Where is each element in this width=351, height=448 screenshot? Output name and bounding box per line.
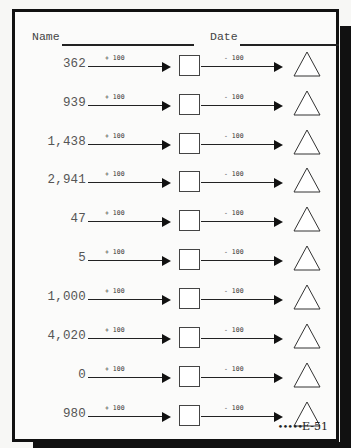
add-arrow — [88, 182, 163, 184]
add-100-label: + 100 — [105, 209, 125, 217]
subtract-arrow — [201, 338, 275, 340]
problem-row: 5 + 100 - 100 — [15, 244, 336, 274]
subtract-arrow — [201, 144, 275, 146]
name-field[interactable] — [62, 44, 194, 46]
add-arrow — [88, 377, 163, 379]
subtract-arrow — [201, 182, 275, 184]
worksheet-code: •••••E-51 — [278, 420, 328, 433]
arrow-head-icon — [162, 217, 171, 227]
code-label: E-51 — [302, 420, 328, 433]
answer-square[interactable] — [179, 405, 200, 426]
page-shadow-bottom — [33, 442, 351, 448]
add-arrow — [88, 338, 163, 340]
subtract-100-label: - 100 — [224, 132, 244, 140]
answer-triangle-icon[interactable] — [293, 167, 321, 193]
answer-square[interactable] — [179, 171, 200, 192]
add-100-label: + 100 — [105, 287, 125, 295]
subtract-100-label: - 100 — [224, 365, 244, 373]
add-arrow — [88, 144, 163, 146]
problem-row: 0 + 100 - 100 — [15, 361, 336, 391]
arrow-head-icon — [274, 178, 283, 188]
date-label: Date — [210, 30, 238, 43]
start-number: 5 — [6, 251, 86, 265]
start-number: 1,000 — [6, 290, 86, 304]
answer-square[interactable] — [179, 249, 200, 270]
arrow-head-icon — [274, 256, 283, 266]
add-100-label: + 100 — [105, 54, 125, 62]
answer-triangle-icon[interactable] — [293, 245, 321, 271]
arrow-head-icon — [162, 295, 171, 305]
add-arrow — [88, 299, 163, 301]
problem-row: 2,941 + 100 - 100 — [15, 166, 336, 196]
subtract-100-label: - 100 — [224, 287, 244, 295]
subtract-arrow — [201, 221, 275, 223]
answer-triangle-icon[interactable] — [293, 206, 321, 232]
add-100-label: + 100 — [105, 326, 125, 334]
add-100-label: + 100 — [105, 248, 125, 256]
arrow-head-icon — [162, 334, 171, 344]
problem-row: 362 + 100 - 100 — [15, 50, 336, 80]
name-label: Name — [32, 30, 60, 43]
start-number: 362 — [6, 57, 86, 71]
add-arrow — [88, 221, 163, 223]
answer-triangle-icon[interactable] — [293, 362, 321, 388]
start-number: 980 — [6, 407, 86, 421]
arrow-head-icon — [162, 412, 171, 422]
add-arrow — [88, 260, 163, 262]
answer-triangle-icon[interactable] — [293, 284, 321, 310]
subtract-100-label: - 100 — [224, 93, 244, 101]
start-number: 1,438 — [6, 135, 86, 149]
answer-square[interactable] — [179, 133, 200, 154]
start-number: 2,941 — [6, 173, 86, 187]
arrow-head-icon — [162, 101, 171, 111]
arrow-head-icon — [274, 62, 283, 72]
answer-triangle-icon[interactable] — [293, 323, 321, 349]
subtract-100-label: - 100 — [224, 209, 244, 217]
answer-square[interactable] — [179, 210, 200, 231]
start-number: 939 — [6, 96, 86, 110]
subtract-arrow — [201, 105, 275, 107]
answer-square[interactable] — [179, 366, 200, 387]
subtract-arrow — [201, 260, 275, 262]
subtract-arrow — [201, 416, 275, 418]
arrow-head-icon — [162, 140, 171, 150]
answer-triangle-icon[interactable] — [293, 129, 321, 155]
arrow-head-icon — [162, 178, 171, 188]
add-arrow — [88, 105, 163, 107]
answer-square[interactable] — [179, 288, 200, 309]
arrow-head-icon — [162, 256, 171, 266]
arrow-head-icon — [162, 373, 171, 383]
answer-triangle-icon[interactable] — [293, 90, 321, 116]
start-number: 0 — [6, 368, 86, 382]
subtract-100-label: - 100 — [224, 170, 244, 178]
arrow-head-icon — [274, 140, 283, 150]
answer-square[interactable] — [179, 94, 200, 115]
arrow-head-icon — [274, 334, 283, 344]
add-arrow — [88, 66, 163, 68]
problem-row: 4,020 + 100 - 100 — [15, 322, 336, 352]
problem-row: 1,438 + 100 - 100 — [15, 128, 336, 158]
add-100-label: + 100 — [105, 365, 125, 373]
answer-square[interactable] — [179, 55, 200, 76]
worksheet: Name Date 362 + 100 - 100 939 + 100 - 10… — [12, 9, 339, 442]
subtract-arrow — [201, 377, 275, 379]
worksheet-header: Name Date — [32, 30, 330, 48]
page-shadow-right — [340, 26, 351, 448]
subtract-100-label: - 100 — [224, 54, 244, 62]
arrow-head-icon — [274, 101, 283, 111]
subtract-100-label: - 100 — [224, 404, 244, 412]
arrow-head-icon — [274, 217, 283, 227]
difficulty-dots: ••••• — [278, 421, 303, 432]
date-field[interactable] — [240, 44, 339, 46]
arrow-head-icon — [274, 373, 283, 383]
add-arrow — [88, 416, 163, 418]
problem-row: 1,000 + 100 - 100 — [15, 283, 336, 313]
arrow-head-icon — [162, 62, 171, 72]
answer-triangle-icon[interactable] — [293, 51, 321, 77]
answer-square[interactable] — [179, 327, 200, 348]
add-100-label: + 100 — [105, 170, 125, 178]
start-number: 4,020 — [6, 329, 86, 343]
start-number: 47 — [6, 212, 86, 226]
add-100-label: + 100 — [105, 132, 125, 140]
add-100-label: + 100 — [105, 93, 125, 101]
